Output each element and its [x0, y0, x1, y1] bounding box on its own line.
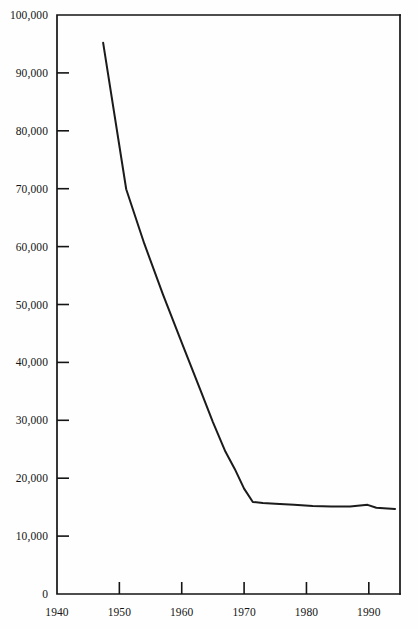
chart-background: [0, 0, 418, 629]
x-tick-label: 1980: [295, 606, 319, 618]
y-tick-label: 60,000: [16, 241, 48, 254]
y-tick-label: 40,000: [16, 356, 48, 369]
y-tick-label: 70,000: [16, 183, 48, 196]
chart-figure: 010,00020,00030,00040,00050,00060,00070,…: [0, 0, 418, 629]
y-tick-label: 20,000: [16, 472, 48, 485]
y-tick-label: 50,000: [16, 299, 48, 312]
x-tick-label: 1990: [357, 606, 381, 618]
y-tick-label: 10,000: [16, 530, 48, 543]
y-tick-label: 90,000: [16, 67, 48, 80]
x-tick-label: 1970: [232, 606, 256, 618]
y-tick-label: 30,000: [16, 414, 48, 427]
x-tick-label: 1960: [170, 606, 194, 618]
x-tick-label: 1950: [108, 606, 132, 618]
y-tick-label: 100,000: [10, 9, 48, 22]
x-tick-label: 1940: [45, 606, 69, 618]
y-tick-label: 0: [42, 588, 48, 600]
line-chart: 010,00020,00030,00040,00050,00060,00070,…: [0, 0, 418, 629]
y-tick-label: 80,000: [16, 125, 48, 138]
